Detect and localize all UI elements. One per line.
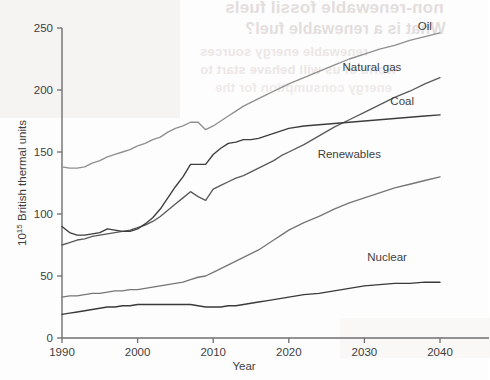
x-axis-tick-labels: 199020002010202020302040 <box>49 346 453 358</box>
series-labels-group: OilNatural gasCoalRenewablesNuclear <box>318 20 432 263</box>
series-label-natural-gas: Natural gas <box>343 61 402 73</box>
series-label-coal: Coal <box>390 95 414 107</box>
y-tick-label-200: 200 <box>34 84 53 96</box>
y-axis-title-base: 10 <box>16 233 28 246</box>
series-line-nuclear <box>62 282 440 314</box>
x-tick-label-2030: 2030 <box>352 346 378 358</box>
y-tick-label-100: 100 <box>34 208 53 220</box>
y-tick-label-150: 150 <box>34 146 53 158</box>
x-tick-label-2000: 2000 <box>125 346 151 358</box>
y-axis-ticks <box>57 28 62 338</box>
x-axis-title: Year <box>232 360 255 372</box>
y-axis-tick-labels: 050100150200250 <box>34 22 53 344</box>
y-tick-label-250: 250 <box>34 22 53 34</box>
series-label-oil: Oil <box>418 20 432 32</box>
x-tick-label-2010: 2010 <box>200 346 226 358</box>
x-tick-label-1990: 1990 <box>49 346 75 358</box>
y-tick-label-0: 0 <box>47 332 53 344</box>
series-label-nuclear: Nuclear <box>367 251 407 263</box>
svg-text:1015 British thermal units: 1015 British thermal units <box>15 120 28 246</box>
series-line-oil <box>62 33 440 168</box>
series-lines-group <box>62 33 440 314</box>
x-tick-label-2040: 2040 <box>427 346 453 358</box>
y-axis-title: 1015 British thermal units <box>15 120 28 246</box>
x-tick-label-2020: 2020 <box>276 346 302 358</box>
series-label-renewables: Renewables <box>318 148 382 160</box>
series-line-renewables <box>62 177 440 297</box>
y-tick-label-50: 50 <box>40 270 53 282</box>
series-line-coal <box>62 115 440 235</box>
x-axis-ticks <box>62 338 440 343</box>
y-axis-title-rest: British thermal units <box>16 120 28 224</box>
